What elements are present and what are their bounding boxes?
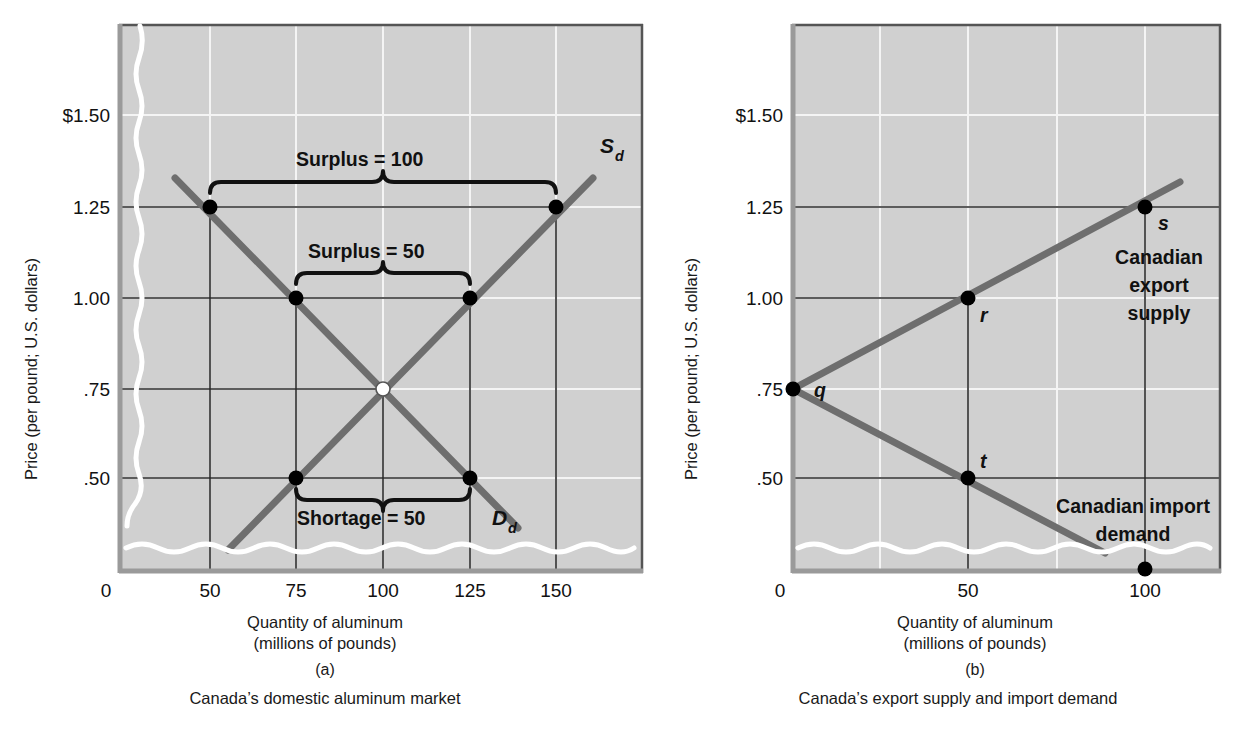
- svg-text:75: 75: [285, 580, 306, 601]
- panel-a-equilibrium-point: [376, 382, 390, 396]
- panel-b-point-q: [786, 382, 801, 397]
- svg-text:export: export: [1129, 274, 1189, 296]
- panel-a-plot: Surplus = 100 Surplus = 50 Shortage = 50…: [0, 0, 650, 590]
- svg-text:d: d: [615, 148, 625, 164]
- panel-b-letter: (b): [735, 660, 1215, 680]
- panel-b: Price (per pound; U.S. dollars): [650, 0, 1246, 755]
- svg-text:100: 100: [367, 580, 399, 601]
- svg-text:1.25: 1.25: [746, 197, 783, 218]
- svg-text:$1.50: $1.50: [62, 105, 110, 126]
- svg-text:.50: .50: [757, 468, 783, 489]
- svg-text:50: 50: [957, 580, 978, 601]
- panel-b-point-s: [1138, 200, 1153, 215]
- svg-text:50: 50: [199, 580, 220, 601]
- panel-a-y-axis-label: Price (per pound; U.S. dollars): [22, 258, 41, 480]
- panel-b-x-axis-label-line1: Quantity of aluminum: [735, 612, 1215, 633]
- svg-text:supply: supply: [1128, 302, 1191, 324]
- panel-b-label-s: s: [1158, 212, 1169, 234]
- panel-a-label-surplus-50: Surplus = 50: [308, 240, 425, 262]
- svg-text:D: D: [492, 506, 507, 529]
- svg-text:.75: .75: [84, 379, 110, 400]
- panel-b-plot: q r s t Canadian export supply Canadian …: [650, 0, 1246, 590]
- svg-text:150: 150: [540, 580, 572, 601]
- figure-root: Price (per pound; U.S. dollars): [0, 0, 1246, 755]
- panel-b-point-r: [961, 291, 976, 306]
- panel-b-point-t: [961, 471, 976, 486]
- svg-text:Canadian: Canadian: [1115, 246, 1203, 268]
- svg-text:100: 100: [1129, 580, 1161, 601]
- panel-b-y-tick-labels: $1.50 1.25 1.00 .75 .50: [735, 105, 783, 489]
- svg-text:0: 0: [775, 580, 786, 601]
- panel-a-x-axis-label-line1: Quantity of aluminum: [55, 612, 595, 633]
- panel-a: Price (per pound; U.S. dollars): [0, 0, 650, 755]
- svg-text:.75: .75: [757, 379, 783, 400]
- panel-a-y-tick-labels: $1.50 1.25 1.00 .75 .50: [62, 105, 110, 489]
- svg-text:demand: demand: [1096, 523, 1171, 545]
- panel-b-x-axis-label: Quantity of aluminum (millions of pounds…: [735, 612, 1215, 653]
- svg-text:S: S: [600, 134, 614, 157]
- svg-text:0: 0: [101, 580, 112, 601]
- svg-text:1.00: 1.00: [746, 288, 783, 309]
- panel-a-label-shortage-50: Shortage = 50: [297, 507, 426, 529]
- svg-text:Canadian import: Canadian import: [1056, 495, 1210, 517]
- panel-a-label-surplus-100: Surplus = 100: [296, 148, 424, 170]
- panel-b-y-axis-label: Price (per pound; U.S. dollars): [682, 258, 701, 480]
- svg-text:1.25: 1.25: [73, 197, 110, 218]
- svg-text:1.00: 1.00: [73, 288, 110, 309]
- svg-text:$1.50: $1.50: [735, 105, 783, 126]
- panel-a-x-axis-label-line2: (millions of pounds): [55, 633, 595, 654]
- panel-b-x-tick-labels: 0 50 100: [775, 580, 1161, 601]
- panel-a-x-axis-label: Quantity of aluminum (millions of pounds…: [55, 612, 595, 653]
- svg-text:.50: .50: [84, 468, 110, 489]
- panel-b-caption: Canada’s export supply and import demand: [670, 688, 1246, 708]
- panel-b-point-axis-100: [1138, 562, 1153, 577]
- panel-a-x-tick-labels: 0 50 75 100 125 150: [101, 580, 572, 601]
- panel-a-letter: (a): [55, 660, 595, 680]
- svg-text:125: 125: [454, 580, 486, 601]
- panel-a-caption: Canada’s domestic aluminum market: [25, 688, 625, 708]
- panel-b-x-axis-label-line2: (millions of pounds): [735, 633, 1215, 654]
- svg-text:d: d: [508, 520, 518, 536]
- panel-b-label-q: q: [814, 379, 826, 401]
